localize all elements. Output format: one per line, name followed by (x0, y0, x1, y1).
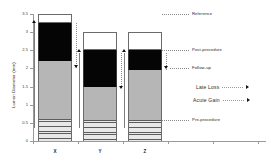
bar-y-late-loss-arrow (119, 86, 123, 89)
x-tick-label-z: Z (133, 149, 157, 154)
x-tick-5 (258, 141, 259, 144)
bar-z-segment-acute-gain (128, 70, 162, 120)
bar-group-z (128, 32, 162, 141)
lumen-diameter-chart: Lumen Diameter (mm) 3.5 3 2.5 2 1.5 1 0.… (0, 0, 271, 165)
annotation-line-follow-up (170, 68, 190, 69)
y-tick-label-1-5: 1.5 (14, 85, 28, 89)
bar-x-segment-reference (38, 14, 72, 23)
bar-z-segment-late-loss (128, 50, 162, 70)
annotation-label-pre-procedure: Pre-procedure (192, 117, 220, 122)
x-tick-3 (168, 141, 169, 144)
legend-rule-late-loss (222, 87, 244, 88)
legend-item-late-loss[interactable]: Late Loss (196, 84, 249, 90)
y-tick-label-2-5: 2.5 (14, 48, 28, 52)
legend-item-acute-gain[interactable]: Acute Gain (193, 97, 250, 103)
legend-label-acute-gain: Acute Gain (193, 97, 220, 103)
y-tick-label-0: 0 (14, 139, 28, 143)
bar-y-acute-gain-arrow (77, 49, 81, 52)
bar-x-segment-acute-gain (38, 61, 72, 119)
annotation-label-follow-up: Follow-up (192, 65, 211, 70)
y-tick-2-5 (30, 50, 33, 51)
bar-y-segment-late-loss (83, 50, 117, 87)
x-tick-label-x: X (43, 149, 67, 154)
x-axis-line (33, 141, 266, 142)
x-tick-2 (123, 141, 124, 144)
bar-group-y (83, 32, 117, 141)
bar-z-acute-gain-whisker (124, 53, 125, 128)
annotation-line-post-procedure (162, 50, 190, 51)
y-tick-1-5 (30, 87, 33, 88)
x-tick-4 (213, 141, 214, 144)
y-tick-3-5 (30, 14, 33, 15)
bar-x-segment-late-loss (38, 23, 72, 61)
bar-y-segment-reference (83, 32, 117, 50)
annotation-line-pre-procedure (162, 120, 190, 121)
bar-z-acute-gain-arrow (122, 49, 126, 52)
y-tick-3 (30, 32, 33, 33)
y-tick-2 (30, 68, 33, 69)
bar-x-acute-gain-whisker (34, 23, 35, 128)
annotation-line-reference (162, 14, 190, 15)
y-tick-0-5 (30, 123, 33, 124)
bar-y-segment-acute-gain (83, 87, 117, 120)
y-tick-label-1: 1 (14, 103, 28, 107)
triangle-right-icon (247, 98, 250, 102)
annotation-label-post-procedure: Post-procedure (192, 47, 222, 52)
x-tick-0 (33, 141, 34, 144)
x-tick-label-y: Y (88, 149, 112, 154)
annotation-label-reference: Reference (192, 11, 212, 16)
bar-y-segment-pre-procedure (83, 120, 117, 141)
y-tick-label-0-5: 0.5 (14, 121, 28, 125)
bar-z-segment-pre-procedure (128, 120, 162, 141)
y-tick-label-3-5: 3.5 (14, 12, 28, 16)
bar-z-late-loss-arrow (164, 66, 168, 69)
bar-x-segment-pre-procedure (38, 119, 72, 141)
y-tick-label-3: 3 (14, 30, 28, 34)
bar-x-acute-gain-arrow (32, 20, 36, 23)
bar-y-acute-gain-whisker (79, 53, 80, 128)
legend-label-late-loss: Late Loss (196, 84, 219, 90)
y-tick-label-2: 2 (14, 66, 28, 70)
bar-x-late-loss-arrow (74, 65, 78, 68)
y-tick-1 (30, 105, 33, 106)
x-tick-1 (78, 141, 79, 144)
bar-z-segment-reference (128, 32, 162, 50)
legend-rule-acute-gain (223, 100, 245, 101)
triangle-right-icon (246, 85, 249, 89)
bar-group-x (38, 14, 72, 141)
bar-x-late-loss-whisker (76, 23, 77, 68)
bar-y-late-loss-whisker (121, 53, 122, 89)
